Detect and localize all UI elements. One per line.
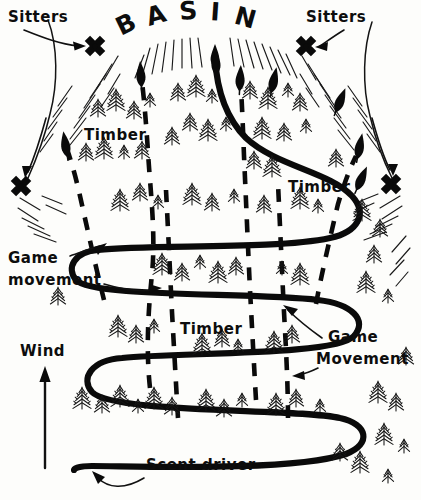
basin-hunting-diagram: B A S I N Sitters Sitters	[0, 0, 421, 500]
title-letter-I: I	[210, 0, 222, 27]
game-movement-left-line1: Game	[8, 249, 58, 267]
wind-label: Wind	[20, 342, 65, 360]
scent-driver-label: Scent driver	[146, 456, 256, 474]
timber-label-mid-right: Timber	[288, 178, 350, 196]
x-mark-icon-top-right[interactable]	[298, 38, 313, 53]
timber-label-lower-center: Timber	[180, 320, 242, 338]
game-movement-right-line1: Game	[328, 328, 378, 346]
sitters-left-label: Sitters	[8, 8, 68, 26]
x-mark-icon-mid-left[interactable]	[13, 178, 28, 193]
title-letter-S: S	[178, 0, 199, 26]
game-movement-left-line2: movement	[8, 271, 102, 289]
game-movement-right-line2: Movement	[316, 350, 409, 368]
x-mark-icon-mid-right[interactable]	[383, 176, 398, 191]
x-mark-icon-top-left[interactable]	[87, 38, 102, 53]
timber-label-upper-left: Timber	[84, 126, 146, 144]
diagram-canvas: B A S I N Sitters Sitters	[0, 0, 421, 500]
sitters-right-label: Sitters	[306, 8, 366, 26]
